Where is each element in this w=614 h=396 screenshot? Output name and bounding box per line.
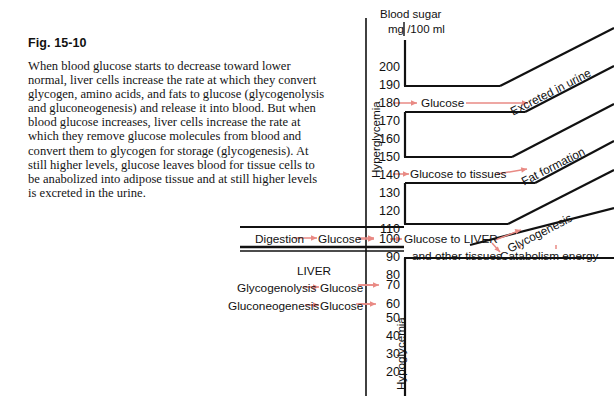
label-glucose-to-liver: Glucose to LIVER: [404, 232, 498, 246]
axis-tick-190: 190: [370, 78, 400, 92]
label-liver: LIVER: [297, 264, 331, 278]
label-glycogenolysis-glucose: Glucose: [320, 281, 363, 295]
blood-sugar-diagram: Blood sugar mg /100 ml 200 190 180 170 1…: [0, 0, 614, 396]
axis-tick-90: 90: [370, 250, 400, 264]
diagram-lines: [0, 0, 614, 396]
axis-tick-70: 70: [370, 278, 400, 292]
label-glucose-180: Glucose: [421, 96, 464, 110]
range-label-hyperglycemia: Hyperglycemia: [369, 101, 382, 178]
axis-tick-120: 120: [370, 204, 400, 218]
axis-tick-100: 100: [370, 232, 400, 246]
axis-tick-60: 60: [370, 297, 400, 311]
label-digestion: Digestion: [255, 232, 304, 246]
label-glucose-to-tissues: Glucose to tissues: [410, 167, 506, 181]
axis-tick-200: 200: [370, 60, 400, 74]
axis-tick-130: 130: [370, 186, 400, 200]
label-gluconeogenesis: Gluconeogenesis: [228, 299, 319, 313]
label-gluconeogenesis-glucose: Glucose: [320, 299, 363, 313]
label-digestion-glucose: Glucose: [318, 232, 361, 246]
range-label-hypoglycemia: Hypoglycemia: [394, 317, 407, 390]
axis-units: mg /100 ml: [388, 23, 445, 35]
axis-title: Blood sugar: [380, 8, 441, 20]
label-and-other-tissues: and other tissues: [412, 249, 502, 263]
label-glycogenolysis: Glycogenolysis: [237, 281, 316, 295]
